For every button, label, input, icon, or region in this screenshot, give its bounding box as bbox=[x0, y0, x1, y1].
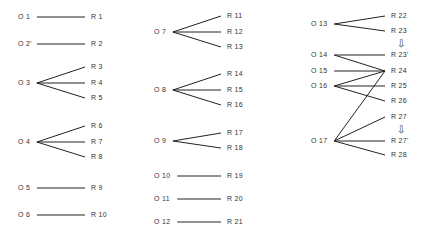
node-o2: O 2' bbox=[18, 40, 32, 48]
node-r7: R 7 bbox=[91, 138, 103, 146]
edge-o16-r26 bbox=[334, 86, 385, 101]
node-r2: R 2 bbox=[91, 40, 103, 48]
edge-o7-r11 bbox=[173, 16, 221, 32]
node-r8: R 8 bbox=[91, 153, 103, 161]
node-r18: R 18 bbox=[227, 144, 243, 152]
node-r24: R 24 bbox=[391, 67, 407, 75]
node-o10: O 10 bbox=[154, 172, 170, 180]
node-o17: O 17 bbox=[311, 137, 327, 145]
node-r4: R 4 bbox=[91, 79, 103, 87]
node-r17: R 17 bbox=[227, 129, 243, 137]
node-r11: R 11 bbox=[227, 12, 242, 20]
node-r27p: R 27' bbox=[391, 137, 409, 145]
edge-o13-r22 bbox=[334, 16, 385, 24]
node-r10: R 10 bbox=[91, 211, 107, 219]
down-arrow-icon: ⇩ bbox=[397, 39, 405, 49]
edge-o16-r24 bbox=[334, 71, 385, 86]
node-r15: R 15 bbox=[227, 86, 243, 94]
edge-o4-r6 bbox=[37, 126, 85, 142]
node-o6: O 6 bbox=[18, 211, 30, 219]
node-o16: O 16 bbox=[311, 82, 327, 90]
node-r28: R 28 bbox=[391, 151, 407, 159]
edge-o8-r14 bbox=[173, 74, 221, 90]
node-o15: O 15 bbox=[311, 67, 327, 75]
edge-o17-r27 bbox=[334, 117, 385, 141]
edge-o9-r18 bbox=[173, 141, 221, 148]
node-o5: O 5 bbox=[18, 184, 30, 192]
node-o14: O 14 bbox=[311, 51, 327, 59]
node-r6: R 6 bbox=[91, 122, 103, 130]
edge-o17-r24 bbox=[334, 71, 385, 141]
edge-o13-r23 bbox=[334, 24, 385, 31]
node-r1: R 1 bbox=[91, 13, 103, 21]
node-o1: O 1 bbox=[18, 13, 30, 21]
edge-o3-r5 bbox=[37, 83, 85, 98]
edge-o7-r13 bbox=[173, 32, 221, 47]
down-arrow-icon: ⇩ bbox=[397, 125, 405, 135]
node-o9: O 9 bbox=[154, 137, 166, 145]
edge-o3-r3 bbox=[37, 67, 85, 83]
node-o3: O 3 bbox=[18, 79, 30, 87]
node-r20: R 20 bbox=[227, 195, 243, 203]
node-r9: R 9 bbox=[91, 184, 103, 192]
node-r22: R 22 bbox=[391, 12, 407, 20]
node-r26: R 26 bbox=[391, 97, 407, 105]
edge-o17-r28 bbox=[334, 141, 385, 155]
diagram-canvas: O 1O 2'O 3O 4O 5O 6O 7O 8O 9O 10O 11O 12… bbox=[0, 0, 423, 239]
edge-o4-r8 bbox=[37, 142, 85, 157]
node-o13: O 13 bbox=[311, 20, 327, 28]
node-r3: R 3 bbox=[91, 63, 103, 71]
edge-o8-r16 bbox=[173, 90, 221, 105]
edge-o14-r24 bbox=[334, 55, 385, 71]
node-r23p: R 23' bbox=[391, 51, 409, 59]
node-r13: R 13 bbox=[227, 43, 243, 51]
node-r5: R 5 bbox=[91, 94, 103, 102]
node-r21: R 21 bbox=[227, 218, 243, 226]
node-r25: R 25 bbox=[391, 82, 407, 90]
node-r14: R 14 bbox=[227, 70, 243, 78]
node-o12: O 12 bbox=[154, 218, 170, 226]
node-r19: R 19 bbox=[227, 172, 243, 180]
node-r27: R 27 bbox=[391, 113, 407, 121]
edge-layer bbox=[0, 0, 423, 239]
node-o4: O 4 bbox=[18, 138, 30, 146]
node-r23: R 23 bbox=[391, 27, 407, 35]
node-o8: O 8 bbox=[154, 86, 166, 94]
edge-o9-r17 bbox=[173, 133, 221, 141]
node-o7: O 7 bbox=[154, 28, 166, 36]
node-r12: R 12 bbox=[227, 28, 243, 36]
node-o11: O 11 bbox=[154, 195, 170, 203]
node-r16: R 16 bbox=[227, 101, 243, 109]
